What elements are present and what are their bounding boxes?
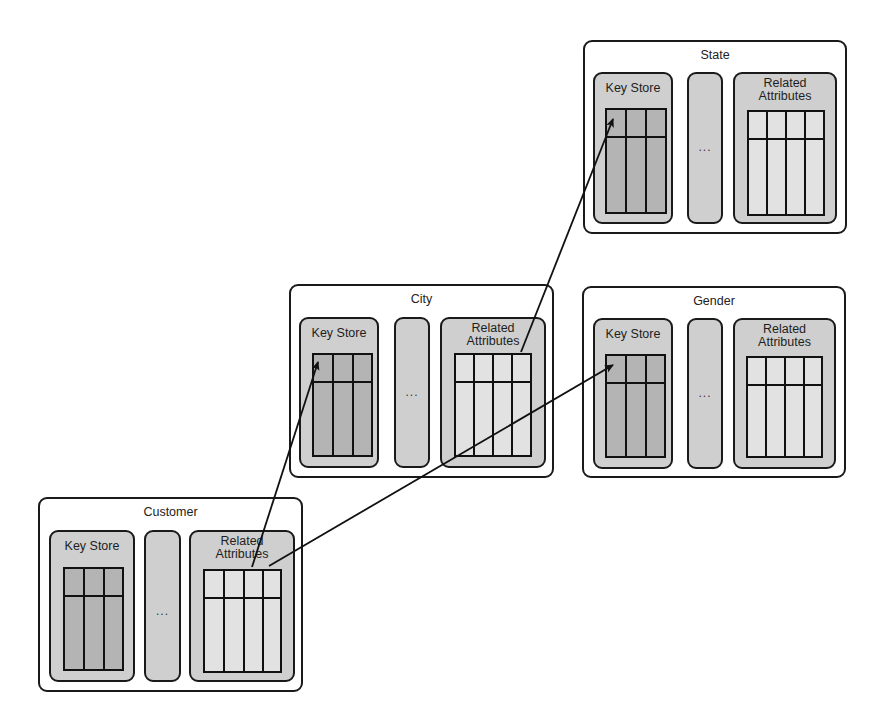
related-attributes-panel: Related Attributes [733,318,836,469]
key-store-label: Key Store [595,82,671,95]
key-store-table [63,567,124,671]
entity-title: Customer [40,505,301,519]
attributes-label: Attributes [442,335,544,348]
entity-gender: Gender Key Store ... Related Attributes [582,286,846,478]
key-store-label: Key Store [301,327,377,340]
key-store-label: Key Store [595,328,671,341]
entity-customer: Customer Key Store ... Related Attribute… [38,497,303,692]
related-attributes-table [747,110,825,216]
ellipsis: ... [146,604,179,618]
key-store-panel: Key Store [299,317,379,468]
key-store-table [312,353,373,457]
ellipsis: ... [396,385,428,399]
entity-city: City Key Store ... Related Attributes [289,284,554,478]
related-attributes-panel: Related Attributes [733,72,837,224]
key-store-table [605,108,667,214]
key-store-panel: Key Store [49,530,135,682]
related-attributes-table [454,353,532,457]
attributes-label: Attributes [735,90,835,103]
key-store-panel: Key Store [593,318,673,469]
entity-state: State Key Store ... Related Attributes [583,40,847,234]
more-panel: ... [394,317,430,468]
attributes-label: Attributes [191,548,293,561]
related-attributes-table [203,569,282,673]
related-attributes-panel: Related Attributes [440,317,546,468]
attributes-label: Attributes [735,336,834,349]
entity-title: Gender [584,294,844,308]
more-panel: ... [687,318,723,469]
entity-title: State [585,48,845,62]
entity-title: City [291,292,552,306]
related-attributes-table [746,356,823,458]
ellipsis: ... [689,140,721,154]
more-panel: ... [687,72,723,224]
related-attributes-panel: Related Attributes [189,530,295,682]
ellipsis: ... [689,386,721,400]
key-store-label: Key Store [51,540,133,553]
key-store-table [605,354,666,458]
more-panel: ... [144,530,181,682]
key-store-panel: Key Store [593,72,673,224]
